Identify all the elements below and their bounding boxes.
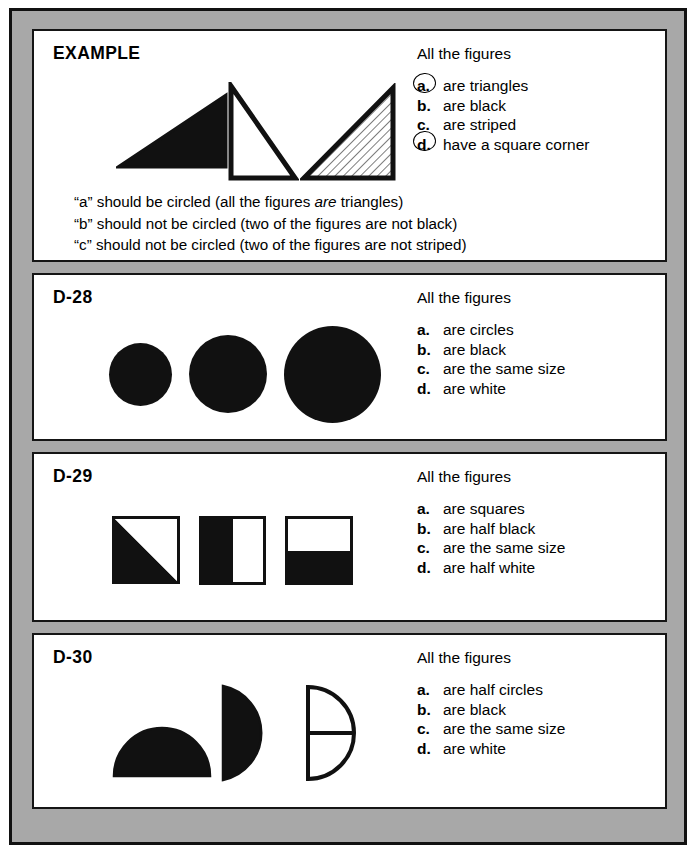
statement-row-b[interactable]: b. are black	[417, 700, 667, 720]
panel-example: EXAMPLE	[32, 29, 667, 262]
statement-text-d: are half white	[443, 558, 535, 578]
statement-letter-b[interactable]: b.	[417, 340, 443, 360]
figure-circle-medium	[189, 335, 267, 413]
statement-row-c[interactable]: c. are striped	[417, 115, 667, 135]
statement-text-b: are half black	[443, 519, 535, 539]
figure-triangle-white	[227, 82, 299, 182]
statement-row-a[interactable]: a. are squares	[417, 499, 667, 519]
statement-list-d29: All the figures a. are squares b. are ha…	[417, 467, 667, 577]
statement-letter-a[interactable]: a.	[417, 680, 443, 700]
statement-letter-d[interactable]: d.	[417, 739, 443, 759]
figure-circle-small	[109, 343, 172, 406]
statement-text-c: are striped	[443, 115, 516, 135]
statement-letter-a[interactable]: a.	[417, 76, 443, 96]
figure-half-circle-black-flat-bottom	[112, 724, 212, 778]
panel-label-d30: D-30	[53, 647, 93, 668]
statement-letter-d[interactable]: d.	[417, 379, 443, 399]
statement-row-b[interactable]: b. are half black	[417, 519, 667, 539]
statement-text-a: are triangles	[443, 76, 528, 96]
figure-triangle-black	[116, 89, 228, 169]
statement-row-a[interactable]: a. are triangles	[417, 76, 667, 96]
statement-row-d[interactable]: d. are white	[417, 379, 667, 399]
figure-group-d28	[34, 323, 404, 438]
panel-d30: D-30 All t	[32, 633, 667, 809]
statement-letter-a[interactable]: a.	[417, 499, 443, 519]
statement-list-example: All the figures a. are triangles b. are …	[417, 44, 667, 154]
statement-text-c: are the same size	[443, 359, 565, 379]
statement-row-a[interactable]: a. are half circles	[417, 680, 667, 700]
statement-letter-c[interactable]: c.	[417, 115, 443, 135]
figure-half-circle-black-flat-left	[220, 683, 276, 783]
figure-half-circle-white-divided	[304, 683, 360, 783]
worksheet-frame-inner: EXAMPLE	[12, 11, 684, 842]
statement-text-a: are squares	[443, 499, 525, 519]
figure-group-example	[34, 71, 404, 181]
figure-square-half-black-diagonal	[112, 516, 180, 584]
panel-d29: D-29 All the figures a. are squares b. a…	[32, 452, 667, 622]
statement-row-c[interactable]: c. are the same size	[417, 359, 667, 379]
statement-text-c: are the same size	[443, 719, 565, 739]
worksheet-frame: EXAMPLE	[9, 8, 687, 845]
statement-letter-d[interactable]: d.	[417, 135, 443, 155]
panel-label-d28: D-28	[53, 287, 93, 308]
figure-triangle-striped	[300, 83, 398, 183]
explanation-line-d: “d” should be circled (all of the figure…	[74, 256, 480, 263]
statement-text-d: are white	[443, 739, 506, 759]
explanation-line-b: “b” should not be circled (two of the fi…	[74, 213, 480, 235]
statement-letter-d[interactable]: d.	[417, 558, 443, 578]
statements-heading: All the figures	[417, 44, 667, 63]
figure-square-half-black-bottom	[285, 516, 353, 585]
statement-text-c: are the same size	[443, 538, 565, 558]
statement-text-b: are black	[443, 96, 506, 116]
figure-group-d29	[34, 498, 404, 618]
figure-circle-large	[284, 326, 381, 423]
statement-letter-c[interactable]: c.	[417, 719, 443, 739]
panel-label-example: EXAMPLE	[53, 43, 140, 64]
statement-letter-c[interactable]: c.	[417, 538, 443, 558]
explanation-line-a: “a” should be circled (all the figures a…	[74, 191, 480, 213]
statement-letter-a[interactable]: a.	[417, 320, 443, 340]
statement-letter-b[interactable]: b.	[417, 96, 443, 116]
statement-text-a: are circles	[443, 320, 514, 340]
statements-heading: All the figures	[417, 467, 667, 486]
statements-heading: All the figures	[417, 288, 667, 307]
statement-letter-b[interactable]: b.	[417, 519, 443, 539]
statements-heading: All the figures	[417, 648, 667, 667]
statement-text-d: have a square corner	[443, 135, 589, 155]
statement-row-c[interactable]: c. are the same size	[417, 719, 667, 739]
worksheet-page: EXAMPLE	[0, 0, 696, 853]
statement-text-a: are half circles	[443, 680, 543, 700]
statement-row-b[interactable]: b. are black	[417, 96, 667, 116]
statement-row-d[interactable]: d. are white	[417, 739, 667, 759]
statement-letter-c[interactable]: c.	[417, 359, 443, 379]
statement-text-d: are white	[443, 379, 506, 399]
statement-text-b: are black	[443, 340, 506, 360]
statement-row-c[interactable]: c. are the same size	[417, 538, 667, 558]
statement-row-d[interactable]: d. are half white	[417, 558, 667, 578]
example-explanations: “a” should be circled (all the figures a…	[74, 191, 480, 262]
panel-label-d29: D-29	[53, 466, 93, 487]
statement-list-d28: All the figures a. are circles b. are bl…	[417, 288, 667, 398]
statement-text-b: are black	[443, 700, 506, 720]
statement-row-d[interactable]: d. have a square corner	[417, 135, 667, 155]
explanation-line-c: “c” should not be circled (two of the fi…	[74, 234, 480, 256]
statement-list-d30: All the figures a. are half circles b. a…	[417, 648, 667, 758]
statement-row-b[interactable]: b. are black	[417, 340, 667, 360]
statement-row-a[interactable]: a. are circles	[417, 320, 667, 340]
figure-group-d30	[34, 675, 404, 800]
panel-d28: D-28 All the figures a. are circles b. a…	[32, 273, 667, 441]
figure-square-half-black-left	[199, 516, 266, 585]
statement-letter-b[interactable]: b.	[417, 700, 443, 720]
